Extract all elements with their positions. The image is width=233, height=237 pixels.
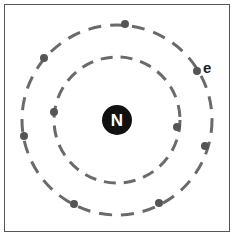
electron-outer-4 bbox=[201, 142, 209, 150]
nucleus-label: N bbox=[111, 111, 123, 130]
electron-outer-8 bbox=[40, 54, 48, 62]
electron-outer-3 bbox=[193, 67, 201, 75]
atom-diagram: N e bbox=[0, 0, 233, 237]
electron-inner-1 bbox=[173, 123, 181, 131]
electron-label: e bbox=[203, 59, 211, 76]
electron-outer-5 bbox=[155, 199, 163, 207]
electron-outer-6 bbox=[70, 200, 78, 208]
electron-outer-2 bbox=[121, 20, 129, 28]
electron-inner-0 bbox=[50, 108, 58, 116]
electron-outer-7 bbox=[20, 132, 28, 140]
